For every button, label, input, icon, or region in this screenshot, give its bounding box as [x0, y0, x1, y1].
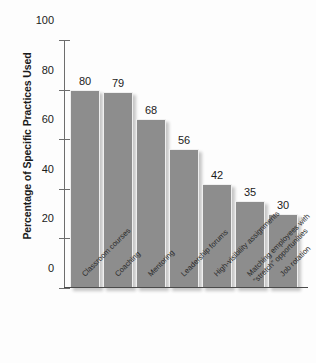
bar-value-label: 79	[98, 77, 138, 89]
y-axis-tick-label: 100	[24, 14, 54, 26]
bar-chart: Percentage of Specific Practices Used 02…	[0, 0, 316, 363]
plot-area: 80796856423530	[64, 20, 304, 268]
y-axis-tick-label: 60	[24, 113, 54, 125]
bar-slot: 80	[69, 20, 102, 288]
x-axis-category-labels: Classroom coursesCoachingMentoringLeader…	[64, 270, 316, 363]
y-axis-tick-label: 0	[24, 262, 54, 274]
bar-slot: 68	[135, 20, 168, 288]
y-axis-tick-labels: 020406080100	[24, 20, 54, 268]
y-axis-tick-label: 20	[24, 212, 54, 224]
bar-slot: 56	[168, 20, 201, 288]
bar-value-label: 30	[263, 199, 303, 211]
bar-value-label: 42	[197, 169, 237, 181]
y-axis-tick-label: 40	[24, 163, 54, 175]
bar-value-label: 56	[164, 134, 204, 146]
y-axis-tick-label: 80	[24, 64, 54, 76]
bar-value-label: 68	[131, 104, 171, 116]
bar-value-label: 35	[230, 186, 270, 198]
